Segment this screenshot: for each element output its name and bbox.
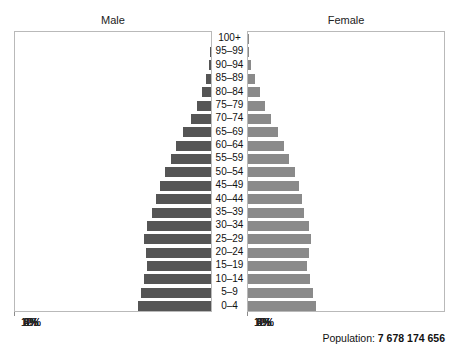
age-label: 60–64 <box>212 138 247 151</box>
table-row <box>15 86 211 99</box>
table-row <box>248 259 444 272</box>
table-row <box>15 112 211 125</box>
male-x-axis: 12%10%8%6%4%2%0% <box>14 312 212 334</box>
table-row <box>15 273 211 286</box>
female-x-axis: 0%2%4%6%8%10%12% <box>247 312 445 334</box>
bar-female <box>248 60 251 70</box>
table-row <box>15 166 211 179</box>
age-label: 90–94 <box>212 58 247 71</box>
population-pyramid-chart: Male Female 100+95–9990–9485–8980–8475–7… <box>0 0 459 348</box>
table-row <box>248 273 444 286</box>
table-row <box>15 286 211 299</box>
table-row <box>248 99 444 112</box>
bar-female <box>248 248 309 258</box>
bar-male <box>160 181 211 191</box>
bar-female <box>248 47 249 57</box>
bar-female <box>248 141 284 151</box>
age-label: 85–89 <box>212 71 247 84</box>
age-group-labels: 100+95–9990–9485–8980–8475–7970–7465–696… <box>212 31 247 312</box>
axis-tick <box>247 312 248 316</box>
bar-male <box>210 47 211 57</box>
age-label: 20–24 <box>212 245 247 258</box>
table-row <box>15 152 211 165</box>
bar-male <box>144 274 211 284</box>
bar-male <box>191 114 211 124</box>
age-label: 15–19 <box>212 258 247 271</box>
bar-female <box>248 261 307 271</box>
bar-male <box>152 208 211 218</box>
table-row <box>15 233 211 246</box>
table-row <box>15 99 211 112</box>
bar-female <box>248 274 310 284</box>
table-row <box>248 219 444 232</box>
bar-male <box>156 194 211 204</box>
table-row <box>248 32 444 45</box>
axis-tick-label: 12% <box>247 317 281 328</box>
table-row <box>15 300 211 313</box>
population-total: Population: 7 678 174 656 <box>322 332 445 344</box>
table-row <box>248 112 444 125</box>
table-row <box>15 246 211 259</box>
male-bar-rows <box>15 32 211 311</box>
female-plot-area <box>247 31 445 312</box>
table-row <box>15 45 211 58</box>
table-row <box>248 193 444 206</box>
table-row <box>15 72 211 85</box>
bar-female <box>248 127 278 137</box>
bar-male <box>171 154 211 164</box>
age-label: 80–84 <box>212 85 247 98</box>
age-label: 95–99 <box>212 44 247 57</box>
table-row <box>15 206 211 219</box>
table-row <box>248 179 444 192</box>
axis-tick-label: 0% <box>14 317 48 328</box>
female-bar-rows <box>248 32 444 311</box>
table-row <box>248 86 444 99</box>
age-label: 5–9 <box>212 285 247 298</box>
bar-male <box>146 248 211 258</box>
bar-male <box>206 74 211 84</box>
table-row <box>15 32 211 45</box>
bar-female <box>248 114 271 124</box>
population-label: Population: <box>322 332 375 344</box>
bar-male <box>144 234 211 244</box>
table-row <box>15 139 211 152</box>
bar-male <box>202 87 211 97</box>
table-row <box>248 206 444 219</box>
age-label: 40–44 <box>212 192 247 205</box>
age-label: 25–29 <box>212 232 247 245</box>
table-row <box>15 193 211 206</box>
age-label: 45–49 <box>212 178 247 191</box>
table-row <box>248 286 444 299</box>
bar-male <box>197 101 211 111</box>
table-row <box>15 126 211 139</box>
table-row <box>15 59 211 72</box>
bar-male <box>183 127 211 137</box>
bar-female <box>248 288 313 298</box>
bar-male <box>147 261 211 271</box>
bar-female <box>248 74 255 84</box>
age-label: 35–39 <box>212 205 247 218</box>
age-label: 0–4 <box>212 299 247 312</box>
male-plot-area <box>14 31 212 312</box>
bar-male <box>176 141 211 151</box>
age-label: 70–74 <box>212 111 247 124</box>
age-label: 100+ <box>212 31 247 44</box>
table-row <box>248 166 444 179</box>
bar-female <box>248 87 260 97</box>
male-panel-title: Male <box>14 14 212 26</box>
bar-female <box>248 301 316 311</box>
bar-female <box>248 101 265 111</box>
table-row <box>248 300 444 313</box>
bar-male <box>165 167 211 177</box>
bar-female <box>248 221 309 231</box>
bar-female <box>248 181 299 191</box>
table-row <box>248 72 444 85</box>
bar-female <box>248 167 295 177</box>
table-row <box>15 179 211 192</box>
age-label: 55–59 <box>212 151 247 164</box>
bar-male <box>147 221 211 231</box>
bar-male <box>141 288 211 298</box>
axis-tick <box>14 312 15 316</box>
table-row <box>248 126 444 139</box>
female-panel-title: Female <box>247 14 445 26</box>
